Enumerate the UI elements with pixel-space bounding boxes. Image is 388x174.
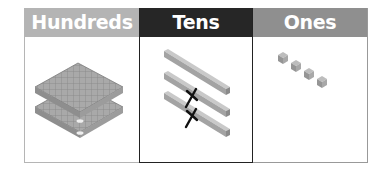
tens-column: Tens xyxy=(139,8,253,163)
ten-rod-1 xyxy=(164,49,230,95)
place-value-chart: Hundreds xyxy=(24,8,368,163)
unit-cube xyxy=(304,68,314,80)
unit-cube xyxy=(317,76,327,88)
hundreds-cell xyxy=(25,37,139,162)
ones-header: Ones xyxy=(253,8,367,37)
tens-header: Tens xyxy=(140,8,252,37)
unit-cube xyxy=(291,60,301,72)
hundreds-header: Hundreds xyxy=(25,8,139,37)
ten-rods-icon xyxy=(140,37,252,162)
ones-cell xyxy=(253,37,367,162)
ones-column: Ones xyxy=(253,8,368,163)
hundred-flats-icon xyxy=(25,37,138,162)
unit-cube xyxy=(278,52,288,64)
tens-cell xyxy=(140,37,252,162)
hundreds-column: Hundreds xyxy=(24,8,139,163)
unit-cubes-icon xyxy=(253,37,366,162)
